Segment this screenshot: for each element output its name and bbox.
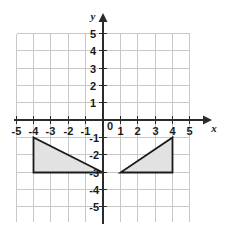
origin-label: 0	[107, 120, 113, 132]
x-label-m5: -5	[12, 125, 22, 137]
y-label-m3: -3	[89, 167, 99, 179]
y-label-m4: -4	[89, 184, 100, 196]
x-label-m3: -3	[46, 125, 56, 137]
x-label-p2: 2	[134, 125, 140, 137]
x-axis-label: x	[210, 122, 217, 134]
x-label-p1: 1	[117, 125, 123, 137]
figure-background	[0, 0, 229, 236]
coordinate-plane-svg: -5 -4 -3 -2 -1 1 2 3 4 5 5 4 3 2 1 -1 -2…	[0, 0, 229, 236]
x-label-p4: 4	[169, 125, 176, 137]
y-label-p2: 2	[90, 80, 96, 92]
y-label-m5: -5	[89, 201, 99, 213]
y-label-m2: -2	[89, 149, 99, 161]
x-label-p5: 5	[186, 125, 192, 137]
y-label-p3: 3	[90, 63, 96, 75]
y-label-p5: 5	[90, 28, 96, 40]
y-label-p1: 1	[90, 97, 96, 109]
coordinate-plane-figure: -5 -4 -3 -2 -1 1 2 3 4 5 5 4 3 2 1 -1 -2…	[0, 0, 229, 236]
y-label-p4: 4	[90, 45, 97, 57]
x-label-p3: 3	[152, 125, 158, 137]
x-label-m4: -4	[29, 125, 40, 137]
y-label-m1: -1	[89, 132, 99, 144]
y-axis-label: y	[89, 10, 96, 22]
x-label-m2: -2	[64, 125, 74, 137]
